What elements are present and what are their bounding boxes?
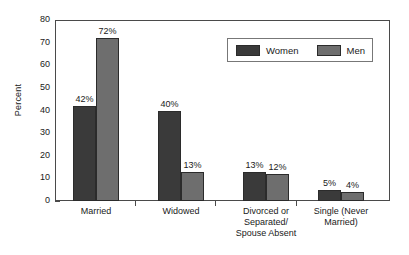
y-tick-mark	[55, 201, 60, 202]
y-tick-label: 60	[24, 60, 50, 69]
women-swatch-icon	[236, 45, 260, 56]
bar-value-label: 12%	[261, 162, 294, 172]
y-tick-label: 80	[24, 15, 50, 24]
bar-chart: Percent 80706050403020100 42%72%40%13%13…	[0, 0, 409, 255]
y-tick-label: 10	[24, 173, 50, 182]
men-swatch-icon	[317, 45, 341, 56]
legend-label-men: Men	[347, 45, 365, 56]
legend-item-men: Men	[317, 45, 365, 56]
chart-legend: Women Men	[227, 38, 373, 62]
bar-women-0	[73, 106, 96, 201]
x-category-label-line: Married)	[291, 217, 391, 228]
bar-value-label: 13%	[176, 160, 209, 170]
y-tick-label: 20	[24, 151, 50, 160]
legend-label-women: Women	[266, 45, 299, 56]
bar-men-1	[181, 172, 204, 201]
x-category-label-line: Spouse Absent	[216, 228, 316, 239]
bar-women-3	[318, 190, 341, 201]
y-tick-label: 40	[24, 106, 50, 115]
bar-value-label: 40%	[153, 99, 186, 109]
bar-men-3	[341, 192, 364, 201]
bar-men-0	[96, 38, 119, 201]
bar-value-label: 4%	[336, 180, 369, 190]
legend-item-women: Women	[236, 45, 299, 56]
y-tick-label: 0	[24, 196, 50, 205]
bar-women-1	[158, 111, 181, 202]
y-tick-label: 50	[24, 83, 50, 92]
y-tick-label: 70	[24, 38, 50, 47]
x-category-label: Single (NeverMarried)	[291, 206, 391, 228]
bar-men-2	[266, 174, 289, 201]
x-category-label-line: Single (Never	[291, 206, 391, 217]
bar-women-2	[243, 172, 266, 201]
y-axis-title: Percent	[13, 70, 23, 130]
y-tick-label: 30	[24, 128, 50, 137]
bar-value-label: 72%	[91, 26, 124, 36]
